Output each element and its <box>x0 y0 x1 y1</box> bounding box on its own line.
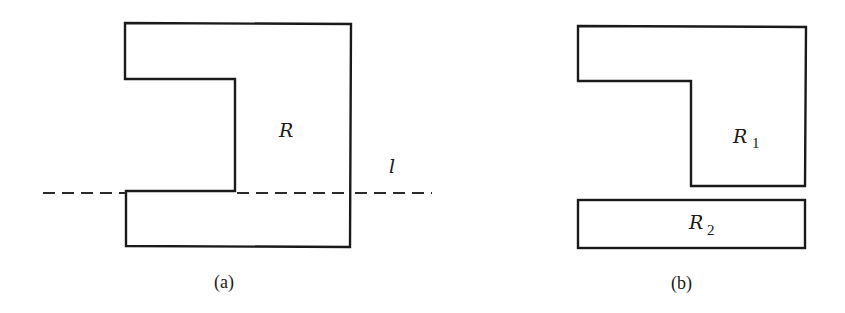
region-r2-label: R 2 <box>688 211 715 238</box>
figure-a: R l (a) <box>43 23 432 293</box>
region-r-outline <box>125 23 351 247</box>
diagram-canvas: R l (a) R 1 R 2 (b) <box>0 0 845 313</box>
region-r1-label: R 1 <box>732 125 760 151</box>
region-r1-letter: R <box>732 125 747 147</box>
caption-a: (a) <box>214 272 234 293</box>
region-r-label: R <box>278 119 293 141</box>
region-r2-letter: R <box>688 211 703 233</box>
region-r2-subscript: 2 <box>707 222 715 238</box>
figure-b: R 1 R 2 (b) <box>578 26 806 294</box>
caption-b: (b) <box>671 273 692 294</box>
region-r1-outline <box>578 26 806 186</box>
line-l-label: l <box>389 155 395 177</box>
region-r1-subscript: 1 <box>752 135 760 151</box>
